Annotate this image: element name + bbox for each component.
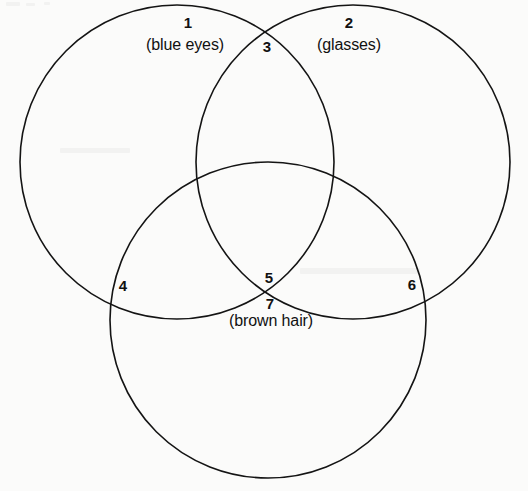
region-label-6: 6 <box>408 277 417 292</box>
region-label-3: 3 <box>263 39 272 54</box>
region-caption-1: (blue eyes) <box>146 37 224 53</box>
venn-circles <box>0 0 528 491</box>
region-label-2: 2 <box>345 15 354 30</box>
region-caption-7: (brown hair) <box>229 313 313 329</box>
region-caption-2: (glasses) <box>317 37 381 53</box>
region-label-4: 4 <box>119 278 128 293</box>
region-label-5: 5 <box>265 270 274 285</box>
region-label-7: 7 <box>266 296 275 311</box>
region-label-1: 1 <box>184 15 193 30</box>
venn-diagram-page: 1 (blue eyes) 2 (glasses) 3 4 5 6 7 (bro… <box>0 0 528 491</box>
